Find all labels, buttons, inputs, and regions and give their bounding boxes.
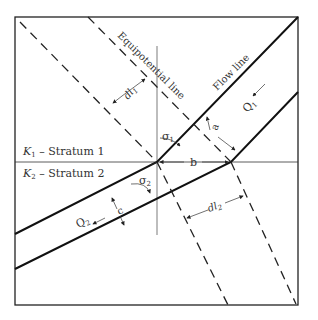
q1-label: Q1 [240,96,259,115]
sigma2-label: σ2 [139,174,151,188]
a-label: a [209,122,221,131]
refraction-diagram: K1 – Stratum 1 K2 – Stratum 2 Equipotent… [0,0,318,320]
dl2-label: dl2 [206,199,224,216]
sigma1-label: σ1 [162,130,174,144]
flow-line-2 [15,92,298,269]
stratum-2-label: K2 – Stratum 2 [22,167,104,181]
equipotential-line-4 [231,162,296,304]
flow-line-1 [15,17,298,234]
b-label: b [190,156,197,169]
equipotential-line-3 [157,162,228,305]
dl1-label: dl1 [121,83,140,102]
equipotential-line-2 [88,17,231,162]
stratum-1-label: K1 – Stratum 1 [22,145,104,159]
c-label: c [115,204,125,217]
q2-label: Q2 [74,213,92,231]
